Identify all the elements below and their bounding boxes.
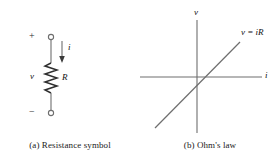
minus-polarity-label: −	[29, 107, 35, 117]
voltage-label: v	[30, 72, 34, 81]
caption-panel-a: (a) Resistance symbol	[0, 140, 140, 150]
resistance-label: R	[62, 73, 68, 82]
v-axis-label: v	[194, 8, 198, 17]
resistance-symbol-drawing	[0, 0, 140, 140]
ohms-law-figure: + − v i R (a) Resistance symbol v i v = …	[0, 0, 280, 160]
current-arrow-head-icon	[59, 56, 65, 63]
caption-panel-b: (b) Ohm's law	[140, 140, 280, 150]
panel-resistance-symbol: + − v i R (a) Resistance symbol	[0, 0, 140, 160]
ohms-law-plot	[140, 0, 280, 140]
equation-annotation: v = iR	[241, 28, 264, 37]
plus-polarity-label: +	[29, 31, 35, 41]
zigzag-resistor-icon	[45, 63, 57, 93]
i-axis-label: i	[265, 71, 268, 80]
bottom-terminal-circle-icon	[48, 110, 53, 115]
current-label: i	[68, 43, 71, 52]
top-terminal-circle-icon	[48, 34, 53, 39]
panel-ohms-law-graph: v i v = iR (b) Ohm's law	[140, 0, 280, 160]
